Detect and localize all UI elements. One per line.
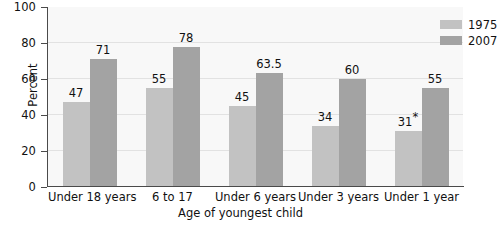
bar-1975-6-to-17[interactable]: 55	[146, 88, 173, 187]
y-tick-mark	[41, 187, 47, 188]
bar-group: 4563.5	[214, 7, 297, 187]
bar-1975-under-18-years[interactable]: 47	[63, 102, 90, 187]
x-axis-title: Age of youngest child	[0, 206, 481, 220]
bar-1975-under-6-years[interactable]: 45	[229, 106, 256, 187]
legend-item-2007[interactable]: 2007	[440, 34, 501, 47]
bar-2007-6-to-17[interactable]: 78	[173, 47, 200, 187]
legend: 1975 2007	[440, 18, 501, 50]
bar-value-label: 63.5	[256, 57, 282, 71]
x-tick-label: 6 to 17	[131, 190, 214, 204]
y-tick-label: 20	[2, 144, 36, 158]
bar-value-label: 60	[345, 63, 360, 77]
bar-value-label: 31*	[398, 115, 418, 129]
x-tick-label: Under 3 years	[297, 190, 380, 204]
bar-2007-under-6-years[interactable]: 63.5	[256, 73, 283, 187]
y-tick-label: 80	[2, 36, 36, 50]
y-tick-label: 100	[2, 0, 36, 14]
bar-value-label: 45	[235, 90, 250, 104]
bar-2007-under-3-years[interactable]: 60	[339, 79, 366, 187]
y-tick-label: 0	[2, 180, 36, 194]
x-tick-label: Under 6 years	[214, 190, 297, 204]
legend-swatch-1975-icon	[440, 20, 462, 29]
bar-group: 5578	[131, 7, 214, 187]
bar-2007-under-1-year[interactable]: 55	[422, 88, 449, 187]
x-tick-label: Under 1 year	[380, 190, 463, 204]
footnote-asterisk: *	[412, 110, 418, 124]
bar-group: 3460	[297, 7, 380, 187]
x-tick-label: Under 18 years	[48, 190, 131, 204]
x-axis-line	[47, 186, 464, 187]
legend-item-1975[interactable]: 1975	[440, 18, 501, 31]
plot-inner: 477155784563.5346031*55	[48, 7, 463, 187]
plot-area: 477155784563.5346031*55 1975 2007	[48, 7, 463, 187]
bar-value-label: 34	[318, 110, 333, 124]
bar-value-label: 71	[96, 43, 111, 57]
bar-value-label: 47	[69, 86, 84, 100]
y-tick-label: 40	[2, 108, 36, 122]
legend-label-1975: 1975	[468, 18, 497, 32]
bar-value-label: 78	[179, 31, 194, 45]
legend-swatch-2007-icon	[440, 36, 462, 45]
y-axis-line	[47, 7, 48, 187]
legend-label-2007: 2007	[468, 34, 497, 48]
bar-value-label: 55	[428, 72, 443, 86]
y-tick-label: 60	[2, 72, 36, 86]
bar-1975-under-1-year[interactable]: 31*	[395, 131, 422, 187]
bar-1975-under-3-years[interactable]: 34	[312, 126, 339, 187]
bar-value-label: 55	[152, 72, 167, 86]
bar-group: 4771	[48, 7, 131, 187]
bar-2007-under-18-years[interactable]: 71	[90, 59, 117, 187]
